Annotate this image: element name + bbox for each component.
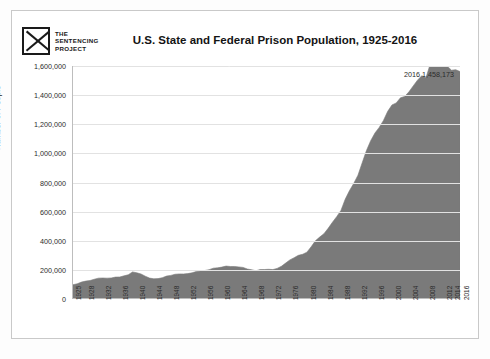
y-tick-label: 200,000	[40, 265, 66, 274]
x-tick-label: 2004	[412, 286, 419, 300]
x-tick-mark	[376, 298, 377, 299]
y-tick-label: 800,000	[40, 178, 66, 187]
x-tick-label: 1968	[258, 286, 265, 300]
gridline	[73, 212, 460, 213]
x-tick-mark	[427, 298, 428, 299]
x-tick-mark	[103, 298, 104, 299]
y-tick-label: 600,000	[40, 207, 66, 216]
x-tick-label: 1932	[105, 286, 112, 300]
plot-area: 2016 1,458,173	[72, 66, 460, 299]
x-tick-label: 2014	[454, 286, 461, 300]
x-tick-mark	[73, 298, 74, 299]
x-tick-label: 1928	[88, 286, 95, 300]
x-tick-mark	[359, 298, 360, 299]
x-tick-label: 2016	[463, 286, 470, 300]
x-tick-mark	[154, 298, 155, 299]
chart-title: U.S. State and Federal Prison Population…	[90, 34, 460, 46]
x-tick-mark	[188, 298, 189, 299]
x-tick-label: 1960	[224, 286, 231, 300]
plot-canvas	[72, 66, 460, 299]
x-tick-label: 1952	[190, 286, 197, 300]
x-tick-mark	[410, 298, 411, 299]
x-tick-label: 2008	[429, 286, 436, 300]
gridline	[73, 66, 460, 67]
x-tick-mark	[444, 298, 445, 299]
x-tick-label: 1925	[75, 286, 82, 300]
x-tick-mark	[342, 298, 343, 299]
x-axis-tick-labels: 1925192819321936194019441948195219561960…	[72, 300, 460, 334]
x-tick-mark	[171, 298, 172, 299]
x-tick-label: 1948	[173, 286, 180, 300]
x-tick-mark	[308, 298, 309, 299]
gridline	[73, 241, 460, 242]
gridline	[73, 95, 460, 96]
x-tick-mark	[393, 298, 394, 299]
data-annotation-2016: 2016 1,458,173	[404, 70, 454, 79]
x-tick-label: 1984	[327, 286, 334, 300]
x-tick-label: 1972	[275, 286, 282, 300]
x-tick-label: 2012	[446, 286, 453, 300]
gridline	[73, 153, 460, 154]
x-tick-label: 1944	[156, 286, 163, 300]
x-tick-mark	[137, 298, 138, 299]
x-mark-logo-icon	[22, 27, 50, 55]
x-tick-label: 1992	[361, 286, 368, 300]
x-tick-label: 1964	[241, 286, 248, 300]
y-tick-label: 1,400,000	[34, 91, 66, 100]
x-tick-mark	[120, 298, 121, 299]
gridline	[73, 270, 460, 271]
sentencing-project-logo: THE SENTENCING PROJECT	[22, 27, 99, 55]
gridline	[73, 124, 460, 125]
y-tick-label: 0	[62, 295, 66, 304]
y-tick-label: 400,000	[40, 236, 66, 245]
y-axis-tick-labels: 0200,000400,000600,000800,0001,000,0001,…	[0, 66, 70, 299]
x-tick-label: 1988	[344, 286, 351, 300]
x-tick-label: 1996	[378, 286, 385, 300]
y-tick-label: 1,600,000	[34, 62, 66, 71]
x-tick-label: 1956	[207, 286, 214, 300]
chart-page: THE SENTENCING PROJECT U.S. State and Fe…	[0, 0, 490, 359]
x-tick-label: 1940	[139, 286, 146, 300]
x-tick-label: 2000	[395, 286, 402, 300]
x-tick-label: 1976	[292, 286, 299, 300]
gridline	[73, 183, 460, 184]
x-tick-label: 1936	[122, 286, 129, 300]
x-tick-mark	[86, 298, 87, 299]
x-tick-mark	[325, 298, 326, 299]
x-tick-label: 1980	[310, 286, 317, 300]
y-tick-label: 1,000,000	[34, 149, 66, 158]
y-tick-label: 1,200,000	[34, 120, 66, 129]
